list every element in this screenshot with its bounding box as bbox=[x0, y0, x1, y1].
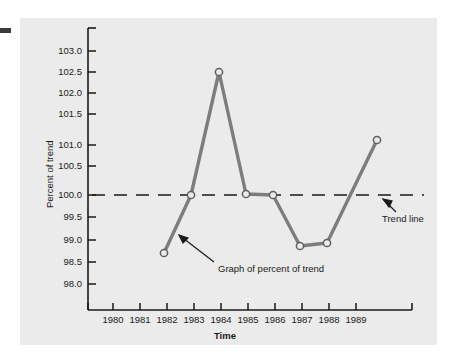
series-annotation-label: Graph of percent of trend bbox=[218, 263, 324, 274]
data-point bbox=[160, 249, 167, 256]
data-point bbox=[187, 191, 194, 198]
data-point bbox=[242, 190, 249, 197]
x-axis-title: Time bbox=[204, 330, 246, 341]
ytick-label: 102.5 bbox=[48, 66, 82, 77]
data-point bbox=[296, 242, 303, 249]
ytick-label: 103.0 bbox=[48, 45, 82, 56]
y-ticks bbox=[88, 51, 96, 284]
series-annotation-arrow bbox=[179, 235, 214, 262]
xtick-label: 1989 bbox=[336, 314, 376, 325]
ytick-label: 98.5 bbox=[48, 256, 82, 267]
series-markers bbox=[160, 68, 380, 256]
ytick-label: 98.0 bbox=[48, 278, 82, 289]
ytick-label: 101.5 bbox=[48, 108, 82, 119]
trend-annotation-label: Trend line bbox=[382, 213, 424, 224]
ytick-label: 102.0 bbox=[48, 87, 82, 98]
figure-root: 103.0 102.5 102.0 101.5 101.0 100.5 100.… bbox=[0, 0, 455, 362]
data-point bbox=[269, 191, 276, 198]
y-axis-title: Percent of trend bbox=[44, 140, 55, 208]
ytick-label: 99.5 bbox=[48, 211, 82, 222]
x-ticks bbox=[113, 303, 356, 310]
trend-annotation-arrow bbox=[383, 199, 396, 212]
data-point bbox=[323, 239, 330, 246]
ytick-label: 99.0 bbox=[48, 234, 82, 245]
data-point bbox=[215, 68, 222, 75]
series-line bbox=[164, 72, 377, 253]
data-point bbox=[373, 136, 380, 143]
